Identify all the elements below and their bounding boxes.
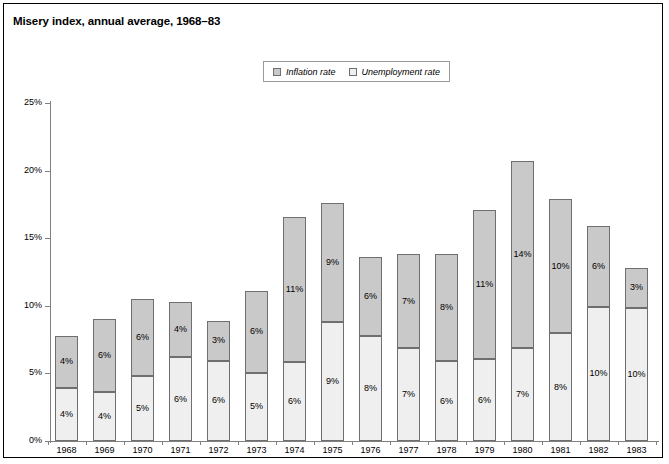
bar-value-label: 7%: [402, 390, 415, 399]
page-title: Misery index, annual average, 1968–83: [13, 15, 220, 27]
bar-segment-unemployment[interactable]: 5%: [131, 376, 154, 441]
bar-group[interactable]: 6%5%: [245, 291, 268, 441]
bar-value-label: 6%: [250, 327, 263, 336]
bar-segment-unemployment[interactable]: 8%: [549, 333, 572, 441]
bar-segment-inflation[interactable]: 6%: [131, 299, 154, 376]
bar-segment-inflation[interactable]: 6%: [359, 257, 382, 336]
y-axis-tick: [45, 373, 50, 374]
bar-segment-unemployment[interactable]: 4%: [55, 388, 78, 441]
bar-group[interactable]: 11%6%: [283, 217, 306, 441]
y-axis-tick-label: 15%: [24, 232, 42, 242]
bar-segment-unemployment[interactable]: 6%: [169, 357, 192, 441]
y-axis-tick: [45, 103, 50, 104]
bar-segment-unemployment[interactable]: 7%: [511, 348, 534, 441]
bar-group[interactable]: 4%6%: [169, 302, 192, 441]
bar-value-label: 8%: [554, 383, 567, 392]
y-axis-tick: [45, 238, 50, 239]
y-axis-labels: 25%20%15%10%5%0%: [4, 4, 42, 464]
bar-segment-inflation[interactable]: 11%: [473, 210, 496, 360]
y-axis-line: [50, 101, 51, 443]
bar-value-label: 6%: [478, 396, 491, 405]
bar-value-label: 11%: [476, 280, 493, 289]
bar-segment-unemployment[interactable]: 7%: [397, 348, 420, 441]
bar-group[interactable]: 7%7%: [397, 254, 420, 441]
y-axis-tick: [45, 306, 50, 307]
bar-value-label: 9%: [326, 258, 339, 267]
bar-group[interactable]: 9%9%: [321, 203, 344, 441]
legend-swatch-unemployment-rate: [349, 68, 357, 76]
legend-item-unemployment-rate[interactable]: Unemployment rate: [349, 67, 441, 77]
bar-group[interactable]: 6%8%: [359, 257, 382, 441]
bar-segment-unemployment[interactable]: 9%: [321, 322, 344, 441]
bar-value-label: 6%: [364, 292, 377, 301]
bar-segment-inflation[interactable]: 11%: [283, 217, 306, 362]
bar-value-label: 3%: [212, 336, 225, 345]
bar-value-label: 10%: [589, 369, 607, 378]
legend-label-inflation-rate: Inflation rate: [286, 67, 336, 77]
x-axis-tick: [656, 441, 657, 445]
bar-value-label: 14%: [513, 250, 531, 259]
legend-item-inflation-rate[interactable]: Inflation rate: [273, 67, 336, 77]
bar-segment-inflation[interactable]: 10%: [549, 199, 572, 333]
bar-value-label: 6%: [288, 397, 301, 406]
y-axis-tick-label: 25%: [24, 97, 42, 107]
bar-group[interactable]: 11%6%: [473, 210, 496, 441]
bar-segment-inflation[interactable]: 14%: [511, 161, 534, 348]
bar-segment-inflation[interactable]: 6%: [587, 226, 610, 307]
bar-segment-inflation[interactable]: 9%: [321, 203, 344, 322]
bar-segment-inflation[interactable]: 4%: [55, 336, 78, 389]
bar-segment-inflation[interactable]: 6%: [245, 291, 268, 373]
bar-segment-unemployment[interactable]: 8%: [359, 336, 382, 441]
bar-group[interactable]: 14%7%: [511, 161, 534, 441]
bar-value-label: 8%: [364, 384, 377, 393]
legend-swatch-inflation-rate: [273, 68, 281, 76]
bar-group[interactable]: 6%10%: [587, 226, 610, 441]
bar-value-label: 5%: [250, 402, 263, 411]
bar-segment-inflation[interactable]: 3%: [207, 321, 230, 361]
bar-segment-unemployment[interactable]: 6%: [435, 361, 458, 441]
y-axis-tick-label: 5%: [29, 367, 42, 377]
bar-segment-unemployment[interactable]: 6%: [473, 359, 496, 441]
x-axis-tick-label: 1983: [614, 445, 660, 455]
bar-value-label: 4%: [60, 357, 73, 366]
bar-segment-inflation[interactable]: 8%: [435, 254, 458, 361]
bar-value-label: 10%: [627, 370, 645, 379]
bar-segment-inflation[interactable]: 7%: [397, 254, 420, 347]
bar-value-label: 8%: [440, 303, 453, 312]
bar-value-label: 6%: [212, 396, 225, 405]
bar-value-label: 4%: [98, 412, 111, 421]
bar-segment-unemployment[interactable]: 6%: [207, 361, 230, 441]
bar-segment-inflation[interactable]: 4%: [169, 302, 192, 358]
chart-figure: Misery index, annual average, 1968–83 In…: [3, 3, 663, 458]
bar-value-label: 11%: [286, 285, 303, 294]
bar-value-label: 6%: [98, 351, 111, 360]
bar-value-label: 5%: [136, 404, 149, 413]
bar-segment-unemployment[interactable]: 10%: [587, 307, 610, 441]
y-axis-tick: [45, 171, 50, 172]
bar-group[interactable]: 6%5%: [131, 299, 154, 441]
bar-segment-unemployment[interactable]: 5%: [245, 373, 268, 441]
bar-segment-inflation[interactable]: 3%: [625, 268, 648, 308]
bar-group[interactable]: 3%6%: [207, 321, 230, 441]
bar-value-label: 6%: [440, 397, 453, 406]
bar-segment-unemployment[interactable]: 6%: [283, 362, 306, 441]
bar-segment-inflation[interactable]: 6%: [93, 319, 116, 392]
bar-group[interactable]: 6%4%: [93, 319, 116, 441]
bar-group[interactable]: 4%4%: [55, 336, 78, 441]
bar-value-label: 6%: [174, 395, 187, 404]
bar-segment-unemployment[interactable]: 4%: [93, 392, 116, 441]
chart-legend: Inflation rate Unemployment rate: [263, 61, 450, 82]
y-axis-tick-label: 10%: [24, 300, 42, 310]
bar-value-label: 7%: [402, 297, 415, 306]
bar-segment-unemployment[interactable]: 10%: [625, 308, 648, 441]
bar-group[interactable]: 8%6%: [435, 254, 458, 441]
y-axis-tick-label: 20%: [24, 165, 42, 175]
bar-value-label: 6%: [592, 262, 605, 271]
bar-value-label: 3%: [630, 283, 643, 292]
bar-value-label: 4%: [174, 325, 187, 334]
bar-group[interactable]: 3%10%: [625, 268, 648, 441]
bar-value-label: 10%: [551, 262, 569, 271]
bar-value-label: 6%: [136, 333, 149, 342]
bar-group[interactable]: 10%8%: [549, 199, 572, 441]
bar-value-label: 7%: [516, 390, 529, 399]
